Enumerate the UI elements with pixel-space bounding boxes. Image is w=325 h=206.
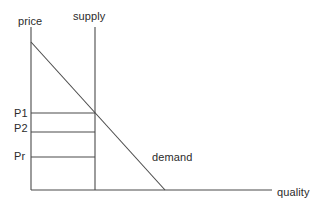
supply-demand-diagram: price supply demand quality P1 P2 Pr — [0, 0, 325, 206]
diagram-drawing — [0, 0, 325, 206]
demand-curve-line — [31, 42, 165, 190]
supply-curve-label: supply — [73, 10, 105, 22]
price-level-label-p1: P1 — [14, 107, 28, 119]
price-level-label-p2: P2 — [14, 122, 28, 134]
demand-curve-label: demand — [152, 151, 192, 163]
y-axis-label: price — [18, 15, 42, 27]
price-level-label-pr: Pr — [14, 150, 25, 162]
x-axis-label: quality — [277, 186, 310, 198]
